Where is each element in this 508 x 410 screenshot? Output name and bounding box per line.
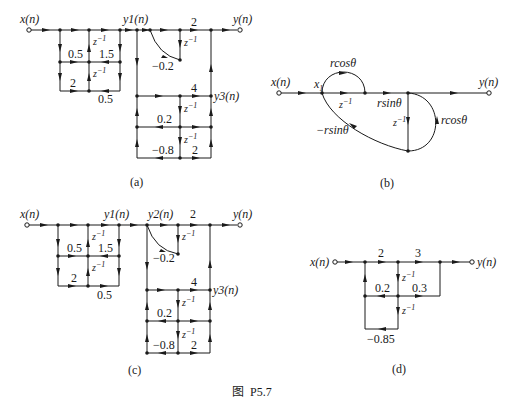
gain-0-2: 0.2 [157,306,172,320]
delay-label: z−1 [92,66,106,79]
gain-rcos-right: rcosθ [441,113,467,127]
output-node-a [238,28,242,32]
gain-2-lower: 2 [192,143,198,157]
figure-caption: 图 P5.7 [232,385,272,399]
input-node-c [25,223,29,227]
gain-neg-0-2: −0.2 [152,59,174,73]
gain-neg-0-2: −0.2 [153,251,175,265]
input-node-d [333,260,337,264]
panel-label-a: (a) [130,175,143,189]
gain-2-top: 2 [190,207,196,221]
label-y2: y2(n) [147,207,173,221]
delay-label: z−1 [338,97,352,110]
gain-1-5: 1.5 [98,241,113,255]
gain-neg-rsin: −rsinθ [316,123,349,137]
output-node-c [238,223,242,227]
gain-4: 4 [191,81,197,95]
label-y3: y3(n) [212,283,238,297]
panel-c: x(n) y1(n) y2(n) 2 y(n) 0.5 1.5 2 0.5 z−… [19,207,252,377]
gain-rsin: rsinθ [377,96,402,110]
label-y1: y1(n) [122,12,148,26]
panel-label-b: (b) [380,176,394,190]
gain-0-2: 0.2 [375,281,390,295]
input-node-a [27,28,31,32]
gain-4: 4 [191,275,197,289]
panel-b: x(n) x1 y(n) rcosθ z−1 rsinθ z−1 rcosθ −… [270,56,498,190]
gain-0-2: 0.2 [157,112,172,126]
delay-label: z−1 [392,115,406,128]
gain-0-5-left: 0.5 [67,241,82,255]
gain-0-3: 0.3 [412,281,427,295]
delay-label: z−1 [91,260,105,273]
label-input: x(n) [309,255,329,269]
label-input: x(n) [19,207,39,221]
gain-2-top: 2 [191,15,197,29]
label-output: y(n) [476,255,496,269]
gain-2-bottom: 2 [70,76,76,90]
delay-label: z−1 [181,295,195,308]
panel-label-c: (c) [128,363,141,377]
gain-1-5: 1.5 [99,47,114,61]
gain-neg-0-8: −0.8 [153,338,175,352]
label-output: y(n) [478,75,498,89]
label-input: x(n) [19,12,39,26]
gain-3: 3 [415,246,421,260]
gain-neg-0-85: −0.85 [367,332,395,346]
figure-p5-7: x(n) y1(n) y(n) 0.5 1.5 2 0.5 z−1 z−1 2 … [0,0,508,410]
output-node-b [487,91,491,95]
delay-label: z−1 [92,34,106,47]
label-output: y(n) [232,12,252,26]
gain-2-lower: 2 [191,338,197,352]
gain-0-5-bottom: 0.5 [98,92,113,106]
gain-rcos-top: rcosθ [330,56,356,70]
gain-neg-0-8: −0.8 [152,143,174,157]
gain-2: 2 [378,246,384,260]
label-y3: y3(n) [213,89,239,103]
label-output: y(n) [232,207,252,221]
delay-label: z−1 [183,101,197,114]
output-node-d [470,260,474,264]
gain-0-5-left: 0.5 [68,47,83,61]
panel-label-d: (d) [392,362,406,376]
delay-label: z−1 [181,229,195,242]
panel-a: x(n) y1(n) y(n) 0.5 1.5 2 0.5 z−1 z−1 2 … [19,12,252,189]
label-input: x(n) [270,75,290,89]
panel-d: x(n) y(n) 2 3 z−1 0.2 0.3 z−1 −0.85 (d) [309,246,496,376]
gain-0-5-bottom: 0.5 [97,288,112,302]
delay-label: z−1 [183,35,197,48]
input-node-b [277,91,281,95]
label-x1: x1 [313,77,323,93]
delay-label: z−1 [401,303,415,316]
gain-2-bottom: 2 [71,271,77,285]
label-y1: y1(n) [103,207,129,221]
